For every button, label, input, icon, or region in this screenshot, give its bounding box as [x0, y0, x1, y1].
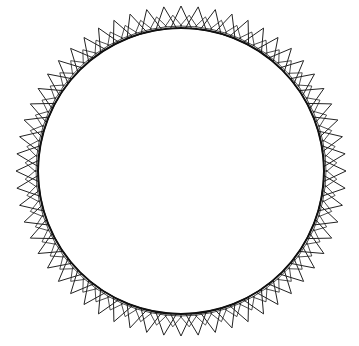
main-circle: [38, 28, 324, 314]
gear-circle-diagram: [0, 0, 359, 346]
triangular-teeth: [16, 6, 346, 336]
